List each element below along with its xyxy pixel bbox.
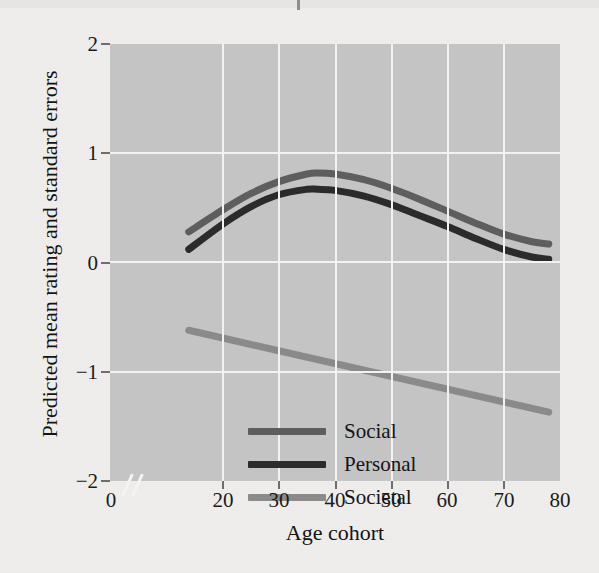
legend-swatch-personal xyxy=(248,461,326,468)
legend-swatch-social xyxy=(248,428,326,435)
plot-area: Social Personal Societal xyxy=(110,44,560,481)
x-tick-label-80: 80 xyxy=(537,488,583,513)
legend-item-personal: Personal xyxy=(248,449,478,482)
x-tick-label-20: 20 xyxy=(200,488,246,513)
x-tick-label-70: 70 xyxy=(481,488,527,513)
x-axis-title: Age cohort xyxy=(110,520,560,546)
figure-page: Predicted mean rating and standard error… xyxy=(0,0,599,573)
x-tick-label-30: 30 xyxy=(256,488,302,513)
x-tick-label-60: 60 xyxy=(424,488,470,513)
x-tick-label-50: 50 xyxy=(368,488,414,513)
y-tick-label-0: 0 xyxy=(58,251,98,276)
x-tick-label-0: 0 xyxy=(88,488,134,513)
legend-label-personal: Personal xyxy=(344,449,416,479)
y-axis-tick-labels: 2 1 0 −1 −2 xyxy=(52,8,98,528)
gridline-x-20 xyxy=(222,44,224,481)
gridline-x-70 xyxy=(503,44,505,481)
y-tick-label-2: 2 xyxy=(58,32,98,57)
x-tick-label-40: 40 xyxy=(312,488,358,513)
y-tick-label-1: 1 xyxy=(58,141,98,166)
y-tick-mark-0 xyxy=(101,262,110,264)
legend-label-social: Social xyxy=(344,416,397,446)
y-tick-label-neg1: −1 xyxy=(58,360,98,385)
y-tick-mark-1 xyxy=(101,152,110,154)
y-tick-mark-2 xyxy=(101,43,110,45)
y-tick-mark-neg1 xyxy=(101,371,110,373)
chart-figure: Predicted mean rating and standard error… xyxy=(0,8,599,573)
y-tick-mark-neg2 xyxy=(101,480,110,482)
legend-item-social: Social xyxy=(248,416,478,449)
